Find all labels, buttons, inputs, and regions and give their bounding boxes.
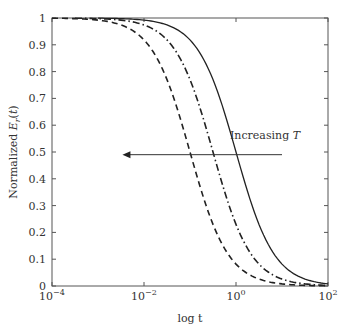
y-tick-label: 0.3: [29, 200, 47, 213]
curve-dashdot: [75, 18, 328, 285]
chart: 00.10.20.30.40.50.60.70.80.9110−410−2100…: [0, 0, 349, 335]
x-tick-label: 10−2: [131, 288, 157, 303]
arrow-head-icon: [122, 151, 130, 158]
plot-frame: [52, 18, 328, 286]
y-tick-label: 0.5: [29, 146, 47, 159]
y-tick-label: 0.6: [29, 119, 47, 132]
y-tick-label: 0.7: [29, 92, 47, 105]
y-tick-label: 0.8: [29, 66, 47, 79]
y-tick-label: 0.1: [29, 253, 47, 266]
y-axis-label: Normalized Er(t): [7, 105, 22, 198]
y-tick-label: 0.2: [29, 226, 47, 239]
x-tick-label: 100: [226, 288, 245, 303]
y-tick-label: 0.4: [29, 173, 47, 186]
y-tick-label: 0.9: [29, 39, 47, 52]
y-tick-label: 1: [39, 12, 46, 25]
curve-dashed: [52, 18, 328, 286]
annotation-label: Increasing T: [230, 129, 302, 142]
x-axis-label: log t: [177, 312, 203, 325]
x-tick-label: 102: [318, 288, 337, 303]
plot-svg: 00.10.20.30.40.50.60.70.80.9110−410−2100…: [0, 0, 349, 335]
x-tick-label: 10−4: [39, 288, 65, 303]
